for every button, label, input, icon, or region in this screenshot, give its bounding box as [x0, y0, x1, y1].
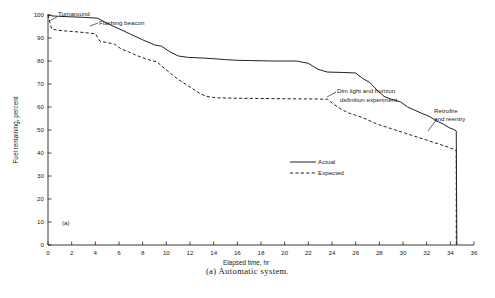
y-tick-label: 20 — [37, 195, 44, 202]
annotation-label-turnaround: Turnaround — [58, 10, 90, 17]
x-tick-label: 24 — [329, 249, 336, 256]
annotation-label-dim-light-horizon-2: definition experiment — [340, 96, 397, 103]
chart-legend: ActualExpected — [290, 158, 344, 176]
x-tick-label: 36 — [471, 249, 478, 256]
data-series-group — [48, 15, 457, 245]
legend-label-actual: Actual — [318, 158, 335, 165]
x-tick-label: 4 — [94, 249, 98, 256]
y-axis-ticks — [48, 15, 52, 245]
y-tick-label: 80 — [37, 57, 44, 64]
y-tick-label: 50 — [37, 126, 44, 133]
chart-svg: 024681012141618202224262830323436 010203… — [0, 0, 495, 298]
y-tick-label: 40 — [37, 149, 44, 156]
x-tick-label: 28 — [376, 249, 383, 256]
x-tick-label: 16 — [234, 249, 241, 256]
x-tick-label: 2 — [70, 249, 74, 256]
x-tick-label: 30 — [400, 249, 407, 256]
annotation-label-dim-light-horizon-1: Dim light and horizon — [337, 87, 396, 94]
y-tick-label: 100 — [34, 11, 45, 18]
x-tick-label: 8 — [141, 249, 145, 256]
annotation-label-retrofire-1: Retrofire — [434, 107, 458, 114]
series-expected — [48, 15, 456, 245]
y-tick-label: 30 — [37, 172, 44, 179]
annotation-label-retrofire-2: and reentry — [434, 115, 466, 122]
x-tick-label: 32 — [423, 249, 430, 256]
axis-lines — [48, 14, 474, 245]
x-tick-label: 10 — [163, 249, 170, 256]
y-tick-label: 70 — [37, 80, 44, 87]
figure-container: 024681012141618202224262830323436 010203… — [0, 0, 495, 298]
annotation-leader-flashing-beacon — [90, 23, 98, 26]
x-tick-label: 20 — [281, 249, 288, 256]
x-tick-label: 18 — [258, 249, 265, 256]
figure-caption: (a) Automatic system. — [0, 266, 495, 276]
y-axis-title: Fuel remaining, percent — [12, 96, 20, 163]
x-tick-label: 12 — [187, 249, 194, 256]
chart-axes — [48, 14, 474, 245]
y-tick-label: 10 — [37, 218, 44, 225]
x-tick-label: 14 — [210, 249, 217, 256]
annotation-leader-dim-light-horizon-1 — [327, 92, 336, 97]
annotation-label-flashing-beacon: Flashing beacon — [99, 19, 145, 26]
x-tick-label: 0 — [46, 249, 50, 256]
x-tick-label: 26 — [352, 249, 359, 256]
x-tick-label: 22 — [305, 249, 312, 256]
y-tick-label: 90 — [37, 34, 44, 41]
x-tick-label: 6 — [117, 249, 121, 256]
x-tick-label: 34 — [447, 249, 454, 256]
y-tick-label: 0 — [41, 241, 45, 248]
x-axis-tick-labels: 024681012141618202224262830323436 — [46, 249, 478, 256]
y-tick-label: 60 — [37, 103, 44, 110]
annotations-group: TurnaroundFlashing beaconDim light and h… — [49, 10, 466, 131]
panel-label: (a) — [62, 219, 70, 226]
legend-label-expected: Expected — [318, 169, 344, 176]
annotation-leader-turnaround — [49, 17, 57, 21]
x-axis-ticks — [48, 242, 474, 246]
y-axis-tick-labels: 0102030405060708090100 — [34, 11, 45, 248]
